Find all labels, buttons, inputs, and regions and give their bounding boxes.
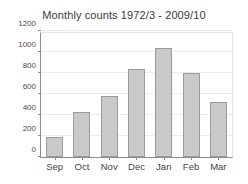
bar-chart-figure: Monthly counts 1972/3 - 2009/10 02004006… xyxy=(0,0,248,184)
y-axis-label: 800 xyxy=(23,60,36,69)
x-axis-label: Feb xyxy=(183,161,199,172)
x-axis-label: Sep xyxy=(46,161,63,172)
y-axis-label: 200 xyxy=(23,123,36,132)
bars-layer: SepOctNovDecJanFebMar xyxy=(41,33,232,157)
bar[interactable] xyxy=(46,137,63,157)
y-axis-label: 400 xyxy=(23,102,36,111)
bar[interactable] xyxy=(210,102,227,157)
bar-group: Feb xyxy=(177,33,204,157)
bar-group: Mar xyxy=(205,33,232,157)
bar-group: Jan xyxy=(150,33,177,157)
x-axis-label: Nov xyxy=(101,161,118,172)
bar[interactable] xyxy=(155,48,172,157)
x-axis-label: Mar xyxy=(210,161,226,172)
bar-group: Oct xyxy=(68,33,95,157)
x-axis-label: Dec xyxy=(128,161,145,172)
bar[interactable] xyxy=(73,112,90,157)
x-axis-label: Oct xyxy=(75,161,90,172)
x-tick-mark xyxy=(164,157,165,160)
bar-group: Dec xyxy=(123,33,150,157)
x-tick-mark xyxy=(136,157,137,160)
bar[interactable] xyxy=(183,73,200,157)
gridline xyxy=(41,30,232,31)
x-tick-mark xyxy=(218,157,219,160)
y-axis-label: 600 xyxy=(23,81,36,90)
bar[interactable] xyxy=(128,69,145,157)
bar-group: Nov xyxy=(96,33,123,157)
x-tick-mark xyxy=(55,157,56,160)
y-axis-label: 1200 xyxy=(18,18,36,27)
bar-group: Sep xyxy=(41,33,68,157)
x-tick-mark xyxy=(191,157,192,160)
x-tick-mark xyxy=(109,157,110,160)
bar[interactable] xyxy=(101,96,118,157)
x-axis-label: Jan xyxy=(156,161,171,172)
y-axis-label: 1000 xyxy=(18,39,36,48)
y-axis-label: 0 xyxy=(32,144,36,153)
y-tick-mark xyxy=(38,30,41,31)
chart-title: Monthly counts 1972/3 - 2009/10 xyxy=(0,9,248,21)
x-tick-mark xyxy=(82,157,83,160)
plot-area: 020040060080010001200 SepOctNovDecJanFeb… xyxy=(40,32,233,158)
